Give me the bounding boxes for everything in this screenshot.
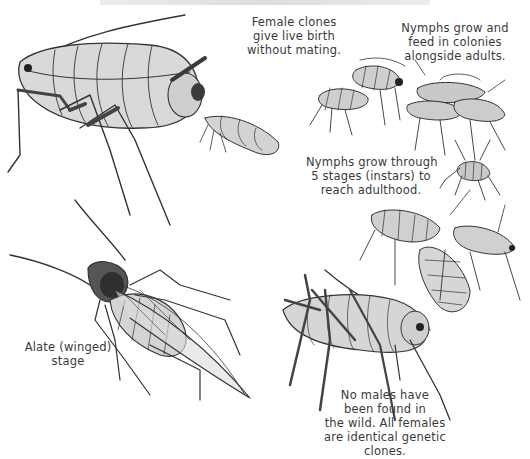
label-line: are identical genetic	[310, 430, 460, 444]
label-line: the wild. All females	[310, 416, 460, 430]
label-line: No males have	[310, 388, 460, 402]
alate-winged-aphid-illustration	[10, 200, 250, 400]
label-nymphs-instars: Nymphs grow through 5 stages (instars) t…	[306, 155, 436, 197]
label-line: Nymphs grow through	[306, 155, 436, 169]
aphid-infographic: Female clones give live birth without ma…	[0, 0, 530, 459]
label-line: without mating.	[236, 43, 352, 57]
nymph-colony-illustration	[310, 58, 505, 160]
label-line: clones.	[310, 444, 460, 458]
label-female-clones: Female clones give live birth without ma…	[236, 15, 352, 57]
label-line: alongside adults.	[390, 49, 520, 63]
label-line: reach adulthood.	[306, 183, 436, 197]
label-line: 5 stages (instars) to	[306, 169, 436, 183]
label-line: stage	[18, 354, 118, 368]
label-no-males: No males have been found in the wild. Al…	[310, 388, 460, 458]
label-line: Female clones	[236, 15, 352, 29]
label-nymphs-colonies: Nymphs grow and feed in colonies alongsi…	[390, 21, 520, 63]
label-line: give live birth	[236, 29, 352, 43]
label-line: been found in	[310, 402, 460, 416]
label-line: feed in colonies	[390, 35, 520, 49]
label-line: Alate (winged)	[18, 340, 118, 354]
label-line: Nymphs grow and	[390, 21, 520, 35]
small-nymph-illustration	[440, 140, 500, 200]
label-alate-stage: Alate (winged) stage	[18, 340, 118, 368]
nymph-cluster-illustration	[360, 190, 520, 312]
